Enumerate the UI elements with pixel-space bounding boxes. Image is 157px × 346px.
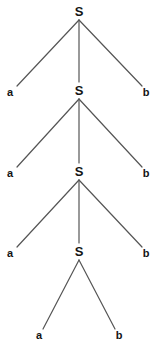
tree-edge-s3-to-a3: [17, 180, 79, 247]
tree-edge-s3-to-b3: [79, 180, 142, 247]
tree-edge-s2-to-a2: [17, 99, 79, 167]
tree-node-b4: b: [116, 330, 123, 341]
tree-node-s4: S: [75, 245, 84, 258]
tree-node-b3: b: [143, 248, 150, 259]
tree-edge-s2-to-b2: [79, 99, 142, 167]
parse-tree-figure: SaSbaSbaSbab: [0, 0, 157, 346]
tree-node-b1: b: [143, 87, 150, 98]
tree-edge-s1-to-a1: [17, 20, 79, 86]
tree-node-s2: S: [75, 84, 84, 97]
tree-node-a4: a: [36, 330, 42, 341]
tree-node-a3: a: [7, 248, 13, 259]
tree-edge-s4-to-b4: [79, 260, 115, 329]
tree-node-s1: S: [75, 5, 84, 18]
tree-edge-s1-to-b1: [79, 20, 142, 86]
tree-node-s3: S: [75, 165, 84, 178]
tree-node-b2: b: [143, 168, 150, 179]
tree-node-a1: a: [7, 87, 13, 98]
tree-edge-s4-to-a4: [43, 260, 79, 329]
tree-node-a2: a: [7, 168, 13, 179]
